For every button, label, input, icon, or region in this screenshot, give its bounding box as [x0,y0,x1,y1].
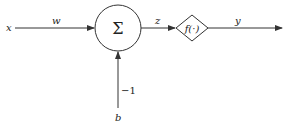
bias-label: b [115,112,121,123]
summation-output-label: z [154,15,161,26]
input-label: x [6,22,12,33]
summation-symbol: Σ [112,19,123,38]
weight-label: w [52,15,61,26]
bias-weight-label: −1 [121,85,136,96]
output-label: y [234,15,241,26]
neuron-diagram: x w Σ z f(·) y −1 b [0,0,287,128]
activation-label: f(·) [184,23,200,34]
